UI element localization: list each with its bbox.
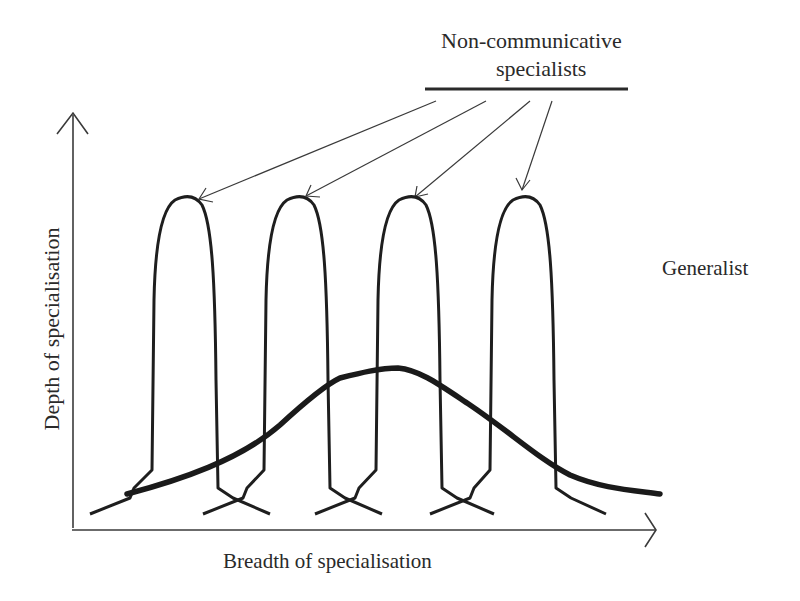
specialist-curve-1	[90, 197, 270, 514]
specialist-curve-3	[315, 197, 494, 514]
title-line-2: specialists	[496, 56, 586, 81]
diagram-canvas: Non-communicative specialists Generalist…	[0, 0, 800, 601]
generalist-label: Generalist	[662, 256, 748, 280]
x-axis	[72, 513, 656, 547]
pointer-arrows	[199, 101, 552, 202]
specialist-curves	[90, 197, 606, 514]
title-line-1: Non-communicative	[441, 28, 622, 53]
y-axis-label: Depth of specialisation	[39, 219, 65, 439]
specialist-curve-4	[430, 197, 606, 514]
diagram-graphics	[0, 0, 800, 601]
specialist-curve-2	[203, 197, 382, 514]
generalist-curve	[127, 368, 660, 494]
x-axis-label: Breadth of specialisation	[223, 549, 432, 573]
